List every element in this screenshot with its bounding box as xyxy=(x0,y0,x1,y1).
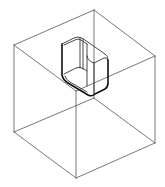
cube-edge-top-back-left xyxy=(14,10,94,45)
cube-edge-bottom-front-left xyxy=(14,132,76,178)
cube-edge-bottom-back-left xyxy=(14,98,94,132)
cube-edge-bottom-back-right xyxy=(94,98,155,143)
outer-cube xyxy=(14,10,155,178)
cube-edge-bottom-front-right xyxy=(76,143,155,178)
pocket-top-rim xyxy=(62,37,108,60)
pocket-floor xyxy=(64,67,87,74)
cube-edge-top-front-right xyxy=(76,56,155,91)
cube-edge-top-front-left xyxy=(14,45,76,91)
cube-edge-top-back-right xyxy=(94,10,155,56)
pocket-inner-rim xyxy=(64,39,87,45)
cube-wireframe-diagram xyxy=(0,0,165,187)
